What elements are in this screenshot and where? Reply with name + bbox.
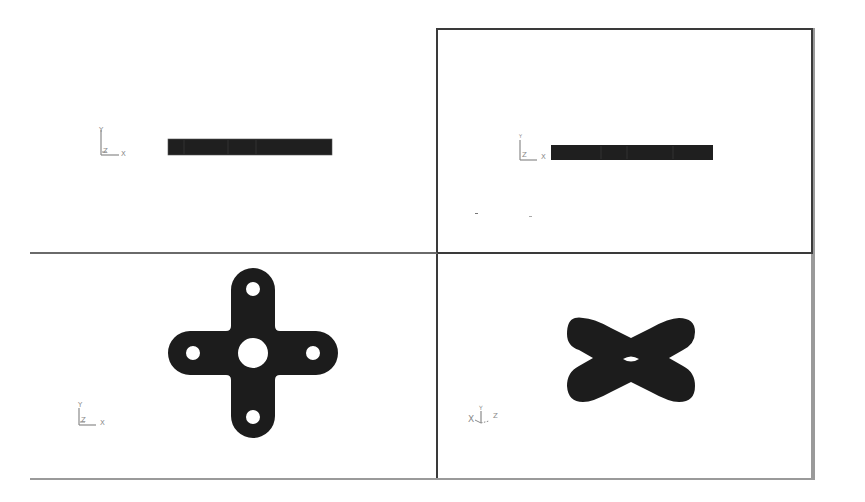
axis-triad-icon: Y Z X bbox=[76, 402, 110, 428]
axis-triad-icon: Y X Z bbox=[467, 405, 507, 427]
axis-label-x: X bbox=[100, 420, 105, 427]
axis-label-z: Z bbox=[103, 148, 108, 155]
axis-label-x: X bbox=[121, 151, 126, 158]
viewport-top-right[interactable] bbox=[438, 28, 813, 254]
axis-label-z: Z bbox=[522, 152, 527, 159]
axis-label-y: Y bbox=[479, 405, 483, 411]
axis-label-y: Y bbox=[99, 127, 103, 134]
cross-plate-plan-view bbox=[168, 268, 338, 438]
axis-label-y: Y bbox=[78, 402, 82, 409]
axis-triad-icon: Y Z X bbox=[97, 127, 131, 157]
axis-label-x: X bbox=[541, 154, 546, 161]
stray-mark bbox=[529, 216, 532, 217]
axis-label-z: Z bbox=[493, 413, 498, 420]
side-view-bar bbox=[551, 145, 714, 161]
axis-triad-icon: Y Z X bbox=[517, 134, 551, 164]
stray-mark bbox=[475, 213, 478, 214]
bowtie-plate-iso-view bbox=[565, 314, 699, 406]
axis-label-z: Z bbox=[81, 417, 86, 424]
axis-label-y: Y bbox=[519, 134, 522, 139]
axis-label-x: X bbox=[468, 415, 474, 424]
front-view-bar bbox=[168, 139, 333, 156]
